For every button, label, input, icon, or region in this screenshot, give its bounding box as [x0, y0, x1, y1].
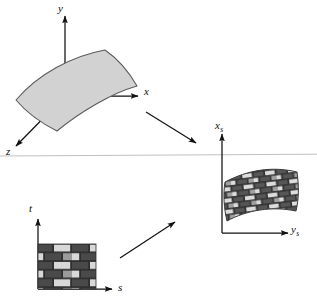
gray-curved-surface	[16, 50, 137, 131]
texture-to-screen-arrow	[120, 222, 175, 258]
texture-mapping-figure: y x z t s xs ys	[0, 0, 317, 299]
axis-label-ys: ys	[291, 224, 299, 235]
brick-texture-square	[38, 244, 96, 289]
object-to-screen-arrow	[146, 112, 196, 143]
axis-label-s: s	[118, 282, 122, 293]
axis-label-z: z	[6, 146, 10, 157]
axis-label-x: x	[144, 86, 149, 97]
axis-label-y: y	[58, 3, 63, 14]
axis-label-t: t	[29, 203, 32, 214]
textured-curved-surface	[215, 158, 310, 233]
panel-divider	[0, 154, 317, 156]
figure-canvas	[0, 0, 317, 299]
axis-label-xs: xs	[215, 120, 223, 131]
